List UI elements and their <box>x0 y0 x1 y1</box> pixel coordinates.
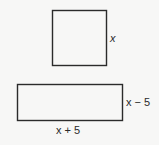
square-shape <box>53 11 107 66</box>
geometry-figure: x x − 5 x + 5 <box>0 0 159 145</box>
rectangle-width-label: x + 5 <box>56 124 80 136</box>
rectangle-shape <box>18 85 123 121</box>
square-side-label: x <box>109 32 116 44</box>
rectangle-height-label: x − 5 <box>126 96 150 108</box>
